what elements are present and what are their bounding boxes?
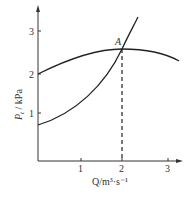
svg-text:Pt / kPa: Pt / kPa bbox=[13, 89, 26, 121]
y-tick-label-3: 3 bbox=[29, 26, 34, 37]
x-tick-label-1: 1 bbox=[78, 163, 83, 174]
x-tick-label-2: 2 bbox=[119, 163, 124, 174]
y-tick-label-1: 1 bbox=[29, 108, 34, 119]
x-tick-label-3: 3 bbox=[165, 163, 170, 174]
point-a-label: A bbox=[114, 36, 122, 47]
y-tick-label-2: 2 bbox=[29, 69, 34, 80]
y-axis-arrow-icon bbox=[36, 5, 40, 12]
chart: 1 2 3 1 2 3 Q/m³·s⁻¹ Pt / kPa A bbox=[0, 0, 193, 198]
x-axis-arrow-icon bbox=[176, 159, 183, 163]
axes bbox=[38, 8, 180, 161]
y-axis-label: Pt / kPa bbox=[13, 89, 26, 121]
x-axis-label: Q/m³·s⁻¹ bbox=[92, 176, 128, 187]
system-curve bbox=[38, 17, 138, 125]
pump-curve bbox=[38, 49, 179, 74]
